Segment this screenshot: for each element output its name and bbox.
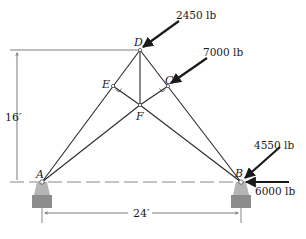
label-C: C	[165, 74, 174, 87]
truss-diagram: D E C F A B 2450 lb 7000 lb 4550 lb 6000…	[0, 0, 306, 239]
load-label-D: 2450 lb	[176, 9, 216, 21]
label-B: B	[234, 167, 243, 180]
support-B	[231, 180, 251, 208]
label-D: D	[133, 36, 143, 49]
load-label-B-inclined: 4550 lb	[254, 139, 294, 151]
joint-F	[138, 103, 141, 106]
joint-E	[111, 84, 114, 87]
load-label-B-horizontal: 6000 lb	[255, 185, 295, 197]
label-E: E	[101, 78, 110, 91]
member-EF	[113, 86, 140, 105]
height-dimension: 16′	[5, 111, 22, 124]
span-dimension: 24′	[133, 207, 150, 220]
support-A	[32, 180, 52, 208]
load-label-C: 7000 lb	[203, 46, 243, 58]
member-CF	[140, 86, 168, 105]
arrow-icon	[171, 58, 207, 83]
arrow-icon	[143, 21, 179, 47]
label-F: F	[135, 110, 144, 123]
label-A: A	[35, 168, 44, 181]
arrow-icon	[245, 147, 280, 178]
